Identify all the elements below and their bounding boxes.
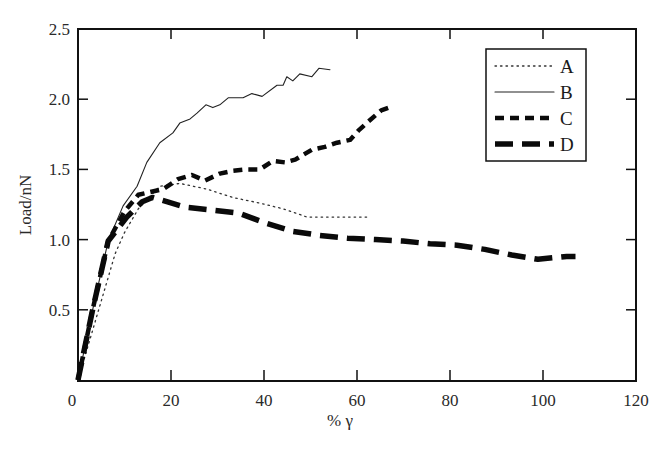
y-tick-label: 2.5 <box>49 20 70 39</box>
legend-label-d: D <box>560 134 574 155</box>
legend: ABCD <box>486 49 586 161</box>
legend-label-b: B <box>560 82 573 103</box>
x-tick-label: 100 <box>530 391 556 410</box>
legend-label-c: C <box>560 108 573 129</box>
x-axis-title: % γ <box>327 411 353 430</box>
x-tick-label: 20 <box>163 391 180 410</box>
x-tick-label: 80 <box>442 391 459 410</box>
y-axis-title: Load/nN <box>16 175 35 235</box>
legend-label-a: A <box>560 56 574 77</box>
y-tick-label: 1.5 <box>49 160 70 179</box>
y-tick-label: 0.5 <box>49 301 70 320</box>
x-tick-label: 40 <box>256 391 273 410</box>
series-line-d <box>78 198 576 381</box>
series-line-b <box>78 68 330 380</box>
x-tick-label: 0 <box>68 391 77 410</box>
x-tick-label: 120 <box>623 391 649 410</box>
load-strain-chart: 0204060801001200.51.01.52.02.5 % γ Load/… <box>0 0 669 450</box>
series-line-c <box>78 106 393 380</box>
x-tick-label: 60 <box>349 391 366 410</box>
y-tick-label: 1.0 <box>49 231 70 250</box>
y-tick-label: 2.0 <box>49 90 70 109</box>
